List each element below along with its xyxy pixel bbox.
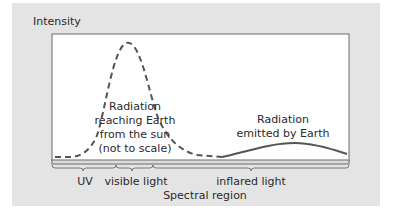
y-axis-label: Intensity: [33, 15, 81, 28]
region-label-infrared: inflared light: [216, 175, 286, 188]
region-label-uv: UV: [77, 175, 93, 188]
sun-label-line4: (not to scale): [99, 142, 172, 155]
earth-label-line1: Radiation: [257, 113, 309, 126]
x-axis-label: Spectral region: [163, 189, 247, 202]
spectrum-diagram: Intensity Radiation reaching Earth from …: [0, 0, 393, 216]
infrared-brace: [153, 165, 349, 171]
sun-label-line3: from the sun: [100, 128, 170, 141]
visible-brace: [116, 165, 153, 171]
plot-area: [52, 34, 349, 161]
sun-label-line2: reaching Earth: [95, 114, 176, 127]
baseline: [52, 160, 349, 164]
earth-label-line2: emitted by Earth: [237, 127, 330, 140]
uv-brace: [52, 165, 116, 171]
sun-label-line1: Radiation: [109, 100, 161, 113]
region-label-visible: visible light: [104, 175, 168, 188]
